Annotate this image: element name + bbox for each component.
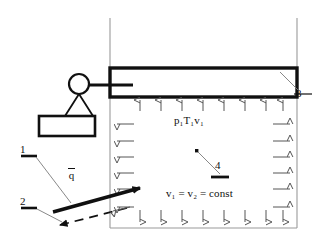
heat-flux-vector-label: q (68, 168, 75, 181)
callout-label-4: 4 (215, 160, 221, 171)
gas-point-marker (195, 149, 229, 177)
pressure-arrows-bottom (140, 210, 283, 222)
weight-block[interactable] (39, 116, 95, 136)
callout-label-2: 2 (20, 196, 26, 207)
volume-relation-label: v₁ = v₂ = const (166, 188, 233, 199)
callout-label-3: 3 (296, 88, 302, 99)
callout-1-leader (21, 156, 71, 203)
piston-block[interactable] (110, 68, 297, 97)
pressure-arrows-top (140, 100, 283, 111)
heat-flux-glyph: q (68, 170, 75, 181)
pressure-arrows-right (273, 124, 290, 207)
state-properties-label: p₁T₁v₁ (174, 115, 204, 126)
diagram-canvas: p₁T₁v₁ v₁ = v₂ = const 1 2 3 4 q (0, 0, 317, 240)
callout-label-1: 1 (20, 144, 26, 155)
weight-hanger (65, 94, 93, 116)
pulley-circle[interactable] (69, 74, 89, 94)
dashed-return-arrow (60, 207, 130, 225)
schematic-drawing (0, 0, 317, 240)
